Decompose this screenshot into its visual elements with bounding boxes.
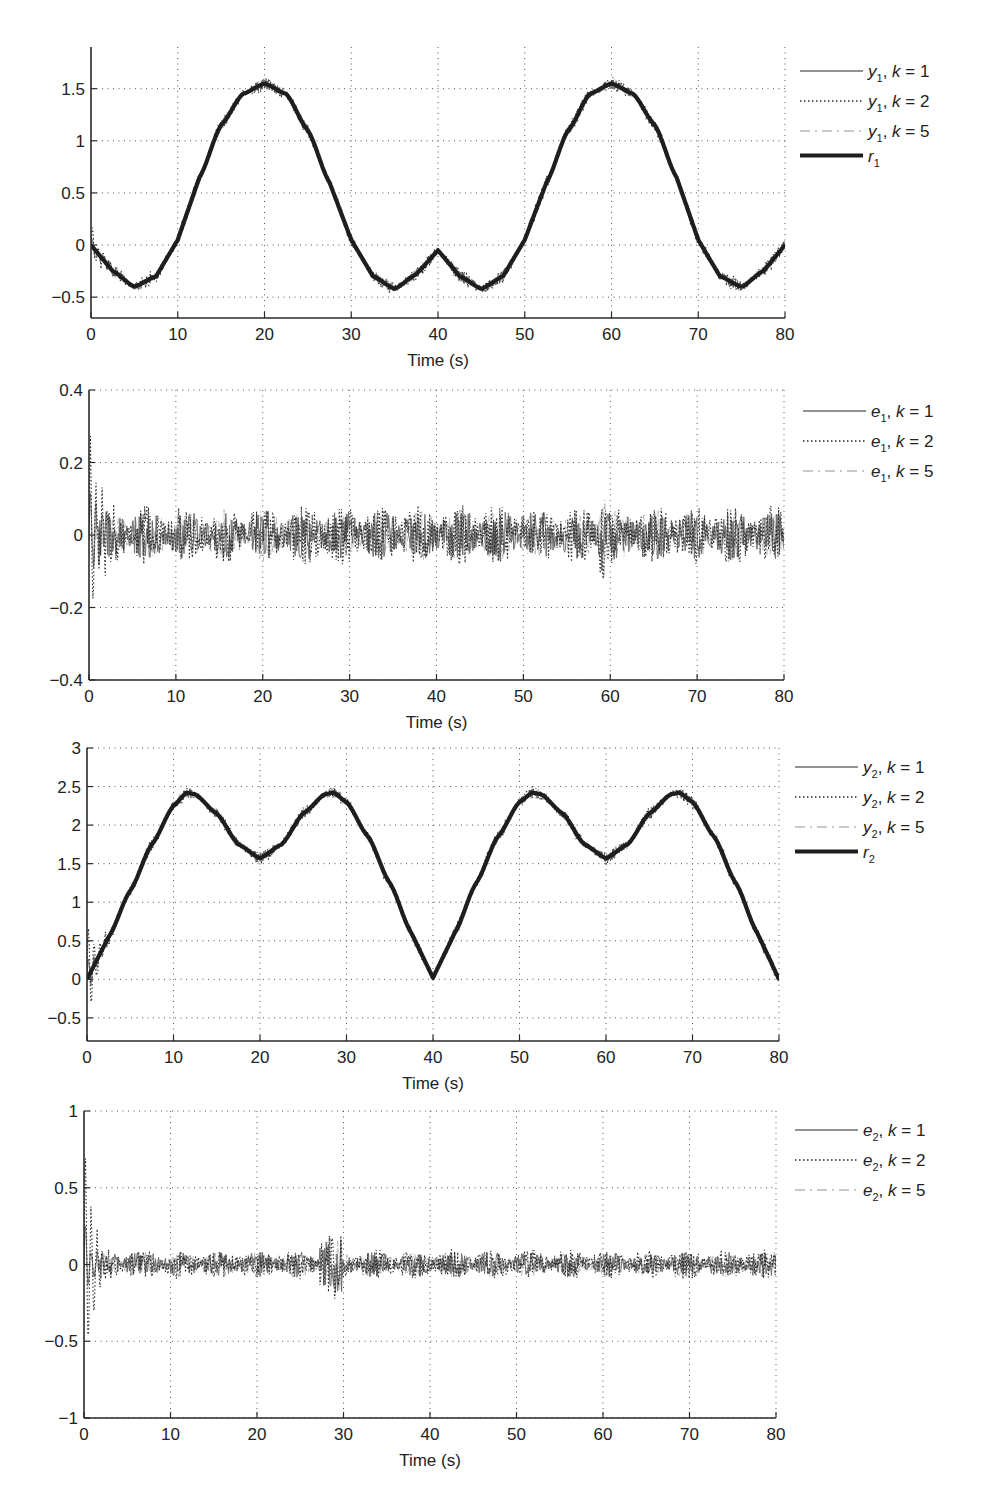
legend-label: y2, k = 2 xyxy=(862,788,924,810)
y-tick-label: 0.5 xyxy=(57,932,81,951)
legend-label: r1 xyxy=(868,147,880,169)
x-tick-label: 0 xyxy=(82,1048,91,1067)
legend: y2, k = 1y2, k = 2y2, k = 5r2 xyxy=(795,758,924,865)
axes: 01020304050607080−1−0.500.51Time (s) xyxy=(44,1102,785,1470)
x-tick-label: 40 xyxy=(429,325,448,344)
y-tick-label: 1 xyxy=(69,1102,78,1121)
legend-label: y2, k = 1 xyxy=(862,758,924,780)
x-tick-label: 70 xyxy=(689,325,708,344)
legend-item-y1-k5: y1, k = 5 xyxy=(800,122,929,144)
y-tick-label: 0 xyxy=(72,970,81,989)
x-tick-label: 50 xyxy=(510,1048,529,1067)
x-tick-label: 10 xyxy=(168,325,187,344)
legend-item-y2-k2: y2, k = 2 xyxy=(795,788,924,810)
y-tick-label: −0.4 xyxy=(49,671,83,690)
y-tick-label: 0.4 xyxy=(59,381,83,400)
x-axis-label: Time (s) xyxy=(406,713,468,732)
reference-line xyxy=(91,84,785,289)
y-tick-label: 1 xyxy=(72,893,81,912)
legend-label: e1, k = 2 xyxy=(871,432,933,454)
legend-label: y1, k = 5 xyxy=(867,122,929,144)
data-lines xyxy=(87,787,779,1002)
x-tick-label: 60 xyxy=(594,1425,613,1444)
x-tick-label: 30 xyxy=(340,687,359,706)
data-lines xyxy=(84,1159,776,1335)
x-tick-label: 30 xyxy=(334,1425,353,1444)
subplot-y1: 01020304050607080−0.500.511.5Time (s)y1,… xyxy=(51,47,929,370)
y-tick-label: 1.5 xyxy=(57,855,81,874)
y-tick-label: 0.2 xyxy=(59,454,83,473)
y-tick-label: 0.5 xyxy=(54,1179,78,1198)
x-tick-label: 0 xyxy=(79,1425,88,1444)
x-tick-label: 50 xyxy=(514,687,533,706)
y-tick-label: 1 xyxy=(76,132,85,151)
x-tick-label: 10 xyxy=(166,687,185,706)
x-tick-label: 20 xyxy=(251,1048,270,1067)
y-tick-label: −0.5 xyxy=(51,288,85,307)
y-tick-label: 0 xyxy=(76,236,85,255)
legend-item-y2-k5: y2, k = 5 xyxy=(795,818,924,840)
x-axis-label: Time (s) xyxy=(402,1074,464,1093)
legend-item-e1-k1: e1, k = 1 xyxy=(803,402,933,424)
y-tick-label: 2 xyxy=(72,816,81,835)
y-tick-label: −1 xyxy=(59,1409,78,1428)
y-tick-label: 2.5 xyxy=(57,778,81,797)
series-line-e2-k2 xyxy=(84,1159,776,1335)
legend-label: e2, k = 2 xyxy=(863,1151,925,1173)
legend-item-y1-k2: y1, k = 2 xyxy=(800,92,929,114)
subplot-y2: 01020304050607080−0.500.511.522.53Time (… xyxy=(47,739,924,1093)
series-line-y2-k1 xyxy=(87,789,779,986)
legend-item-e1-k2: e1, k = 2 xyxy=(803,432,933,454)
legend: e1, k = 1e1, k = 2e1, k = 5 xyxy=(803,402,933,484)
y-tick-label: 0 xyxy=(74,526,83,545)
x-tick-label: 10 xyxy=(161,1425,180,1444)
x-tick-label: 20 xyxy=(253,687,272,706)
x-tick-label: 20 xyxy=(255,325,274,344)
x-axis-label: Time (s) xyxy=(407,351,469,370)
subplot-e2: 01020304050607080−1−0.500.51Time (s)e2, … xyxy=(44,1102,925,1470)
legend-item-e2-k5: e2, k = 5 xyxy=(795,1181,925,1203)
y-tick-label: 3 xyxy=(72,739,81,758)
legend-label: e1, k = 5 xyxy=(871,462,933,484)
x-tick-label: 70 xyxy=(683,1048,702,1067)
legend-item-r2: r2 xyxy=(795,843,875,865)
legend-label: e2, k = 1 xyxy=(863,1121,925,1143)
x-tick-label: 30 xyxy=(337,1048,356,1067)
legend-item-y1-k1: y1, k = 1 xyxy=(800,62,929,84)
series-line-y2-k5 xyxy=(87,788,779,983)
x-tick-label: 10 xyxy=(164,1048,183,1067)
x-tick-label: 70 xyxy=(688,687,707,706)
x-tick-label: 70 xyxy=(680,1425,699,1444)
x-tick-label: 40 xyxy=(427,687,446,706)
x-tick-label: 60 xyxy=(602,325,621,344)
x-tick-label: 80 xyxy=(775,687,794,706)
x-tick-label: 20 xyxy=(248,1425,267,1444)
subplot-e1: 01020304050607080−0.4−0.200.20.4Time (s)… xyxy=(49,381,933,732)
y-tick-label: 1.5 xyxy=(61,80,85,99)
y-tick-label: −0.5 xyxy=(44,1332,78,1351)
x-tick-label: 80 xyxy=(770,1048,789,1067)
axes: 01020304050607080−0.500.511.5Time (s) xyxy=(51,47,794,370)
x-tick-label: 50 xyxy=(515,325,534,344)
legend-label: y1, k = 1 xyxy=(867,62,929,84)
y-tick-label: 0.5 xyxy=(61,184,85,203)
legend-item-e2-k1: e2, k = 1 xyxy=(795,1121,925,1143)
x-tick-label: 60 xyxy=(601,687,620,706)
x-tick-label: 40 xyxy=(421,1425,440,1444)
x-tick-label: 50 xyxy=(507,1425,526,1444)
figure: 01020304050607080−0.500.511.5Time (s)y1,… xyxy=(0,0,983,1496)
legend-item-r1: r1 xyxy=(800,147,880,169)
x-tick-label: 80 xyxy=(776,325,795,344)
legend-label: r2 xyxy=(863,843,875,865)
legend-label: e2, k = 5 xyxy=(863,1181,925,1203)
legend-item-e2-k2: e2, k = 2 xyxy=(795,1151,925,1173)
x-axis-label: Time (s) xyxy=(399,1451,461,1470)
legend-label: y2, k = 5 xyxy=(862,818,924,840)
x-tick-label: 0 xyxy=(84,687,93,706)
series-line-e2-k1 xyxy=(84,1226,776,1293)
y-tick-label: −0.2 xyxy=(49,599,83,618)
x-tick-label: 80 xyxy=(767,1425,786,1444)
series-line-y2-k2 xyxy=(87,787,779,1002)
legend-label: e1, k = 1 xyxy=(871,402,933,424)
legend: e2, k = 1e2, k = 2e2, k = 5 xyxy=(795,1121,925,1203)
